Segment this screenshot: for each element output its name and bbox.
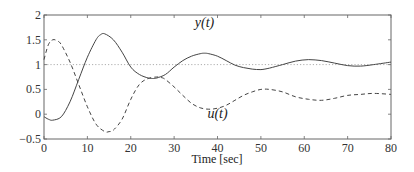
y-tick-label: 0.5	[26, 82, 41, 96]
x-tick-label: 20	[125, 141, 137, 155]
x-tick-label: 80	[385, 141, 397, 155]
y-tick-label: 0	[35, 107, 41, 121]
series-label: u(t)	[207, 106, 228, 122]
x-tick-label: 60	[298, 141, 310, 155]
x-tick-label: 0	[41, 141, 47, 155]
series-label: y(t)	[193, 15, 215, 31]
line-chart: 01020304050607080−0.500.511.52 y(t)u(t) …	[0, 0, 414, 172]
x-tick-label: 30	[168, 141, 180, 155]
y-tick-label: 1.5	[26, 33, 41, 47]
x-tick-label: 70	[342, 141, 354, 155]
series-labels: y(t)u(t)	[193, 15, 228, 122]
x-tick-label: 50	[255, 141, 267, 155]
x-tick-label: 10	[81, 141, 93, 155]
y-tick-label: 2	[35, 8, 41, 22]
y-tick-label: 1	[35, 58, 41, 72]
y-tick-label: −0.5	[19, 132, 41, 146]
x-axis-label: Time [sec]	[191, 152, 242, 166]
